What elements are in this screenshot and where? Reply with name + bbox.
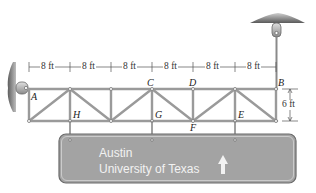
node-label-c: C [147, 78, 154, 88]
member-diagonal-5 [193, 89, 235, 121]
height-dimension-label: 6 ft [281, 100, 296, 110]
panel-dimension-label: 8 ft [122, 62, 137, 72]
wall-support-icon [8, 62, 28, 112]
panel-dimension-label: 8 ft [246, 62, 261, 72]
node-label-b: B [278, 78, 284, 88]
panel-dimension-label: 8 ft [81, 62, 96, 72]
node-label-g: G [155, 110, 162, 120]
node-label-a: A [31, 92, 37, 102]
truss-figure: 8 ft 8 ft 8 ft 8 ft 8 ft 8 ft 6 ft A B C… [0, 0, 316, 193]
node-label-d: D [189, 78, 196, 88]
node-label-h: H [73, 110, 80, 120]
node-label-f: F [190, 123, 196, 133]
panel-dimension-line [29, 62, 276, 72]
panel-dimension-label: 8 ft [205, 62, 220, 72]
sign-line-2: University of Texas [99, 163, 199, 175]
panel-dimension-label: 8 ft [163, 62, 178, 72]
panel-dimension-label: 8 ft [40, 62, 55, 72]
node-label-e: E [238, 110, 244, 120]
sign-line-1: Austin [99, 147, 132, 159]
member-diagonal-3 [111, 89, 152, 121]
